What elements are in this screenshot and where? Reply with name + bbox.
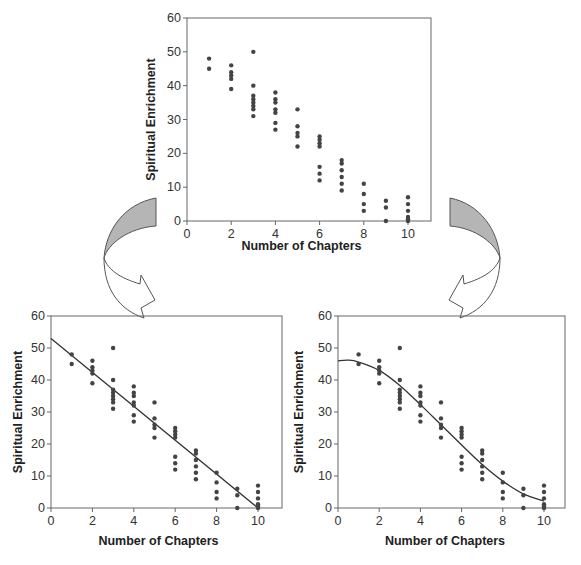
data-point <box>132 403 136 407</box>
data-point <box>542 483 546 487</box>
data-point <box>173 467 177 471</box>
data-point <box>214 496 218 500</box>
data-point <box>256 496 260 500</box>
x-tick-label: 2 <box>89 514 96 528</box>
y-tick-label: 10 <box>318 469 332 483</box>
data-point <box>132 384 136 388</box>
x-tick-label: 6 <box>172 514 179 528</box>
right-curved-arrow-icon <box>449 198 500 318</box>
data-point <box>439 426 443 430</box>
data-point <box>256 483 260 487</box>
fit-line <box>338 360 544 501</box>
data-point <box>214 490 218 494</box>
data-point <box>340 188 344 192</box>
data-point <box>317 178 321 182</box>
y-tick-label: 10 <box>167 180 181 194</box>
data-point <box>459 455 463 459</box>
data-point <box>111 407 115 411</box>
plot-frame <box>187 18 431 221</box>
data-point <box>317 144 321 148</box>
data-point <box>235 493 239 497</box>
data-point <box>194 451 198 455</box>
data-point <box>273 100 277 104</box>
data-point <box>152 400 156 404</box>
x-tick-label: 10 <box>251 514 265 528</box>
data-point <box>439 400 443 404</box>
data-point <box>256 506 260 510</box>
data-point <box>480 464 484 468</box>
data-point <box>207 67 211 71</box>
data-point <box>295 124 299 128</box>
data-point <box>295 134 299 138</box>
data-point <box>398 346 402 350</box>
x-axis-label: Number of Chapters <box>385 534 505 548</box>
data-point <box>439 416 443 420</box>
data-point <box>480 477 484 481</box>
data-point <box>173 455 177 459</box>
data-point <box>173 435 177 439</box>
data-point <box>377 381 381 385</box>
data-point <box>384 199 388 203</box>
data-point <box>132 413 136 417</box>
data-point <box>501 496 505 500</box>
x-tick-label: 10 <box>401 227 415 241</box>
data-point <box>439 435 443 439</box>
y-axis-label: Spiritual Enrichment <box>144 58 158 181</box>
data-point <box>480 451 484 455</box>
data-point <box>295 144 299 148</box>
data-point <box>214 480 218 484</box>
data-point <box>406 195 410 199</box>
data-point <box>111 346 115 350</box>
data-point <box>340 168 344 172</box>
data-point <box>194 464 198 468</box>
data-point <box>273 121 277 125</box>
y-tick-label: 40 <box>318 373 332 387</box>
y-tick-label: 20 <box>31 437 45 451</box>
data-point <box>398 378 402 382</box>
y-tick-label: 60 <box>31 309 45 323</box>
y-tick-label: 30 <box>167 113 181 127</box>
data-point <box>406 202 410 206</box>
x-axis-label: Number of Chapters <box>98 534 218 548</box>
data-point <box>521 487 525 491</box>
plot-frame <box>338 316 565 508</box>
data-point <box>295 107 299 111</box>
data-point <box>542 506 546 510</box>
y-tick-label: 40 <box>167 79 181 93</box>
data-point <box>132 419 136 423</box>
x-tick-label: 4 <box>417 514 424 528</box>
data-point <box>398 407 402 411</box>
data-point <box>111 378 115 382</box>
data-point <box>459 461 463 465</box>
y-tick-label: 60 <box>318 309 332 323</box>
data-point <box>194 458 198 462</box>
chart-bottom-left-linear-fit: 01020304050600246810Number of ChaptersSp… <box>11 309 282 548</box>
y-tick-label: 20 <box>318 437 332 451</box>
x-tick-label: 2 <box>228 227 235 241</box>
data-point <box>480 458 484 462</box>
data-point <box>459 435 463 439</box>
chart-top-scatter: 01020304050600246810Number of ChaptersSp… <box>144 11 431 253</box>
data-point <box>111 400 115 404</box>
data-point <box>70 362 74 366</box>
data-point <box>362 202 366 206</box>
y-tick-label: 0 <box>325 501 332 515</box>
x-tick-label: 10 <box>537 514 551 528</box>
y-axis-label: Spiritual Enrichment <box>11 350 25 473</box>
y-tick-label: 20 <box>167 146 181 160</box>
x-tick-label: 0 <box>184 227 191 241</box>
data-point <box>356 352 360 356</box>
data-point <box>152 416 156 420</box>
data-point <box>317 165 321 169</box>
data-point <box>251 114 255 118</box>
x-tick-label: 4 <box>130 514 137 528</box>
data-point <box>90 371 94 375</box>
data-point <box>384 219 388 223</box>
data-point <box>418 384 422 388</box>
data-point <box>317 171 321 175</box>
left-curved-arrow-icon <box>104 198 156 318</box>
data-point <box>70 352 74 356</box>
data-point <box>340 182 344 186</box>
x-tick-label: 8 <box>213 514 220 528</box>
x-tick-label: 8 <box>499 514 506 528</box>
